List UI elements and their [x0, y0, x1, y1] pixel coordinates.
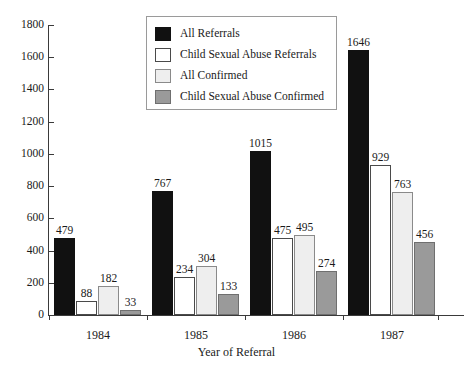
bar — [120, 310, 141, 315]
y-axis-tick-label: 1400 — [0, 83, 44, 95]
bar-value-label: 767 — [140, 177, 185, 189]
bar-value-label: 479 — [42, 224, 87, 236]
y-axis-tick — [48, 154, 54, 155]
bar — [76, 301, 97, 315]
y-axis-tick — [48, 57, 54, 58]
x-axis-tick — [147, 315, 148, 320]
legend-swatch-icon — [155, 69, 171, 83]
bar-value-label: 182 — [86, 272, 131, 284]
x-axis-title: Year of Referral — [0, 345, 473, 359]
y-axis-tick — [48, 25, 54, 26]
legend-swatch-icon — [155, 90, 171, 104]
legend-item-label: All Referrals — [180, 27, 240, 40]
bar-value-label: 495 — [282, 221, 327, 233]
bar — [348, 50, 369, 315]
legend-swatch-icon — [155, 48, 171, 62]
y-axis-tick-label: 1800 — [0, 19, 44, 31]
legend-item-all-confirmed: All Confirmed — [147, 65, 336, 86]
bar — [294, 235, 315, 315]
y-axis-tick-label: 600 — [0, 212, 44, 224]
y-axis-tick — [48, 186, 54, 187]
bar — [414, 242, 435, 315]
bar-value-label: 304 — [184, 252, 229, 264]
y-axis-tick — [48, 89, 54, 90]
bar-value-label: 763 — [380, 178, 425, 190]
y-axis-tick-label: 0 — [0, 309, 44, 321]
bar-value-label: 456 — [402, 228, 447, 240]
x-axis-tick-label: 1987 — [352, 328, 432, 342]
legend-item-child-sexual-abuse-referrals: Child Sexual Abuse Referrals — [147, 44, 336, 65]
legend-item-label: Child Sexual Abuse Referrals — [180, 48, 316, 61]
legend-swatch-icon — [155, 27, 171, 41]
x-axis-tick-label: 1986 — [254, 328, 334, 342]
x-axis-tick — [438, 315, 439, 320]
bar — [152, 191, 173, 315]
y-axis-tick-label: 1600 — [0, 51, 44, 63]
bar — [218, 294, 239, 315]
y-axis-line — [48, 25, 49, 315]
x-axis-tick-label: 1984 — [58, 328, 138, 342]
y-axis-tick — [48, 218, 54, 219]
bar — [392, 192, 413, 315]
y-axis-tick-label: 1200 — [0, 116, 44, 128]
bar-value-label: 274 — [304, 257, 349, 269]
bar — [174, 277, 195, 315]
y-axis-tick-label: 200 — [0, 277, 44, 289]
legend-item-label: All Confirmed — [180, 69, 247, 82]
x-axis-tick — [245, 315, 246, 320]
x-axis-line — [48, 315, 464, 316]
bar-value-label: 1015 — [238, 137, 283, 149]
legend-item-label: Child Sexual Abuse Confirmed — [180, 90, 324, 103]
y-axis-tick-label: 800 — [0, 180, 44, 192]
legend-item-all-referrals: All Referrals — [147, 23, 336, 44]
bar-value-label: 33 — [108, 296, 153, 308]
bar — [54, 238, 75, 315]
bar-value-label: 1646 — [336, 36, 381, 48]
bar — [272, 238, 293, 315]
x-axis-tick — [49, 315, 50, 320]
bar-value-label: 929 — [358, 151, 403, 163]
bar-value-label: 133 — [206, 280, 251, 292]
x-axis-tick — [343, 315, 344, 320]
y-axis-tick-label: 400 — [0, 245, 44, 257]
y-axis-tick — [48, 122, 54, 123]
x-axis-tick-label: 1985 — [156, 328, 236, 342]
y-axis-tick-label: 1000 — [0, 148, 44, 160]
legend-item-child-sexual-abuse-confirmed: Child Sexual Abuse Confirmed — [147, 86, 336, 107]
legend: All Referrals Child Sexual Abuse Referra… — [146, 16, 337, 110]
bar — [316, 271, 337, 315]
bar-chart: 020040060080010001200140016001800 198419… — [0, 0, 473, 365]
